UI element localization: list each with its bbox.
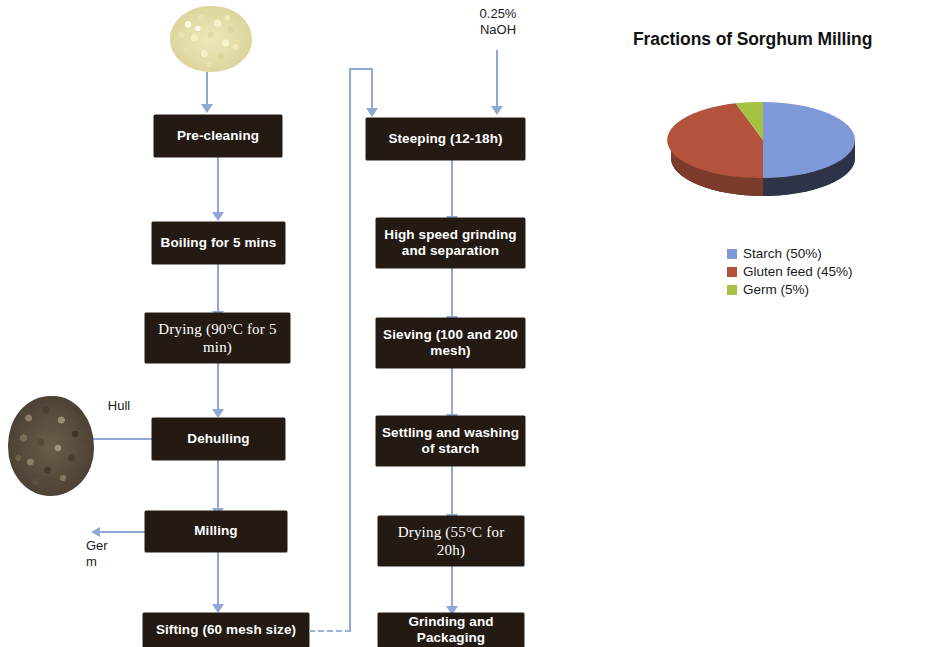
process-label-drying-90c: Drying (90°C for 5 min) [149,320,286,357]
process-label-milling: Milling [149,523,283,539]
process-label-high-speed-grinding: High speed grinding and separation [380,227,521,260]
legend-item-starch: Starch (50%) [727,246,853,261]
connector-recycle-down-to-steeping [371,68,373,110]
label-hull: Hull [95,398,143,414]
process-box-pre-cleaning[interactable]: Pre-cleaning [154,115,282,157]
arrowhead-precleaning-in [201,104,213,113]
connector-recycle-vertical [349,68,351,631]
chart-legend: Starch (50%) Gluten feed (45%) Germ (5%) [727,246,853,300]
legend-label-gluten-feed: Gluten feed (45%) [743,264,853,279]
process-box-grinding-packaging[interactable]: Grinding and Packaging [378,613,524,647]
process-box-sifting[interactable]: Sifting (60 mesh size) [143,613,309,647]
chart-title: Fractions of Sorghum Milling [633,29,872,50]
process-label-drying-55c: Drying (55°C for 20h) [382,523,520,560]
pie-chart [665,85,861,205]
legend-label-starch: Starch (50%) [743,246,822,261]
connector-settling-to-drying55 [451,466,453,516]
connector-milling-to-sifting [217,552,219,606]
pie-chart-svg [665,85,861,205]
connector-grain-to-precleaning [206,72,208,106]
connector-recycle-top-horizontal [349,68,373,70]
legend-swatch-starch [727,249,737,259]
arrowhead-boiling-in [212,212,224,221]
sorghum-grain-pile-image [170,6,252,72]
legend-swatch-gluten-feed [727,267,737,277]
process-box-boiling[interactable]: Boiling for 5 mins [152,222,285,264]
process-box-settling-washing[interactable]: Settling and washing of starch [376,416,525,466]
connector-naoh-to-steeping [496,50,498,108]
legend-item-germ: Germ (5%) [727,282,853,297]
arrowhead-sifting-in [212,604,224,613]
connector-sieving-to-settling [451,368,453,416]
process-box-dehulling[interactable]: Dehulling [152,418,285,460]
process-label-dehulling: Dehulling [156,431,281,447]
process-label-grinding-packaging: Grinding and Packaging [382,614,520,647]
connector-sifting-loop-horizontal [309,630,351,632]
process-box-sieving[interactable]: Sieving (100 and 200 mesh) [376,318,525,368]
legend-swatch-germ [727,285,737,295]
process-label-sieving: Sieving (100 and 200 mesh) [380,327,521,360]
process-label-settling-washing: Settling and washing of starch [380,425,521,458]
process-label-boiling: Boiling for 5 mins [156,235,281,251]
connector-dehulling-to-milling [217,460,219,510]
connector-boiling-to-drying90 [217,263,219,313]
process-box-milling[interactable]: Milling [145,511,287,552]
hull-pile-image [8,396,94,496]
arrowhead-germ-out [91,527,100,537]
arrowhead-dehulling-in [212,409,224,418]
legend-item-gluten-feed: Gluten feed (45%) [727,264,853,279]
label-naoh: 0.25% NaOH [452,6,544,39]
process-box-high-speed-grinding[interactable]: High speed grinding and separation [376,218,525,268]
connector-precleaning-to-boiling [217,157,219,214]
connector-highspeed-to-sieving [451,268,453,318]
process-box-drying-55c[interactable]: Drying (55°C for 20h) [378,516,524,566]
process-label-sifting: Sifting (60 mesh size) [147,622,305,638]
label-germ: Ger m [86,538,124,571]
legend-label-germ: Germ (5%) [743,282,809,297]
connector-drying90-to-dehulling [217,363,219,411]
connector-dehulling-to-hull [86,438,154,440]
process-box-steeping[interactable]: Steeping (12-18h) [366,118,525,160]
arrowhead-steeping-recycle-in [366,108,378,117]
figure-canvas: Pre-cleaning Boiling for 5 mins Drying (… [0,0,926,647]
process-label-steeping: Steeping (12-18h) [370,131,521,147]
connector-drying55-to-grinding [451,566,453,610]
process-label-pre-cleaning: Pre-cleaning [158,128,278,144]
process-box-drying-90c[interactable]: Drying (90°C for 5 min) [145,313,290,363]
arrowhead-steeping-naoh-in [491,106,503,115]
connector-steeping-to-highspeed [451,160,453,218]
